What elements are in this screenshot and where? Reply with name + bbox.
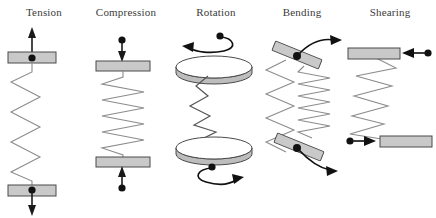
torque-dot-top [216, 32, 223, 39]
bending-diagram [256, 24, 348, 218]
force-arrow-up-icon [118, 166, 126, 192]
shearing-diagram [344, 24, 436, 218]
disc-bottom [176, 137, 252, 165]
torque-arrow-bottom-icon [198, 163, 244, 184]
pivot-dot-top [28, 54, 35, 61]
panel-compression: Compression [78, 0, 174, 218]
panel-rotation: Rotation [168, 0, 264, 218]
torque-arrow-top-icon [182, 32, 233, 52]
panel-label-tension: Tension [0, 6, 88, 18]
shear-arrow-left-icon [402, 48, 432, 58]
panel-label-compression: Compression [78, 6, 174, 18]
plate-bottom [96, 157, 150, 167]
panel-shearing: Shearing [344, 0, 436, 218]
plate-top [348, 48, 400, 59]
panel-bending: Bending [256, 0, 348, 218]
plate-top [96, 61, 150, 71]
disc-top [176, 56, 252, 84]
compression-diagram [78, 24, 174, 218]
rotation-diagram [168, 24, 264, 218]
spring-compressed-right [298, 66, 330, 138]
panel-label-shearing: Shearing [344, 6, 436, 18]
spring-compressed [102, 71, 144, 161]
spring-stretched [11, 63, 40, 190]
panel-tension: Tension [0, 0, 88, 218]
spring-sheared [350, 54, 396, 140]
tension-diagram [0, 24, 88, 218]
moment-arrow-top-icon [298, 35, 342, 55]
force-arrow-down-icon [118, 36, 126, 62]
plate-bottom [380, 136, 432, 147]
spring-deformation-figure: Tension Compression [0, 0, 436, 218]
panel-label-rotation: Rotation [168, 6, 264, 18]
panel-label-bending: Bending [256, 6, 348, 18]
torque-dot-bottom [208, 163, 215, 170]
